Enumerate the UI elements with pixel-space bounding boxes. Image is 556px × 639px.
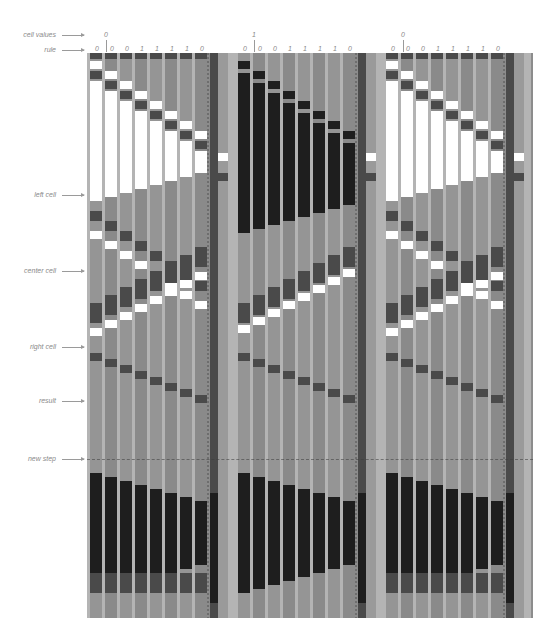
rule-bit: 0 [496,45,500,52]
cell-value: 1 [252,31,256,38]
rule-bit: 1 [481,45,485,52]
wavy-divider [503,53,505,618]
rule-bit: 1 [436,45,440,52]
column [366,53,376,618]
column [461,53,473,618]
cell-value: 0 [401,31,405,38]
column [253,53,265,618]
arrow-icon [62,195,84,196]
rule-bit: 0 [391,45,395,52]
arrow-icon [62,459,84,460]
arrow-icon [62,35,84,36]
wavy-divider [207,53,209,618]
column [283,53,295,618]
automaton-diagram [87,53,533,618]
column [90,53,102,618]
column [120,53,132,618]
rule-bit: 1 [466,45,470,52]
column [328,53,340,618]
rule-bit: 0 [348,45,352,52]
cell-value-pointer [106,40,107,52]
rule-bit: 0 [243,45,247,52]
column [210,53,218,618]
rule-bit: 0 [200,45,204,52]
column [313,53,325,618]
rule-bit: 0 [421,45,425,52]
rule-bit: 1 [140,45,144,52]
cell-value: 0 [104,31,108,38]
label-rule: rule [0,46,56,53]
rule-bit: 0 [95,45,99,52]
column [165,53,177,618]
new-step-line [87,459,533,460]
column [238,53,250,618]
label-right-cell: right cell [0,343,56,350]
rule-bit: 1 [155,45,159,52]
column [524,53,531,618]
wavy-divider [355,53,357,618]
column [150,53,162,618]
column [135,53,147,618]
label-cell-values: cell values [0,31,56,38]
label-center-cell: center cell [0,267,56,274]
column [228,53,235,618]
label-left-cell: left cell [0,191,56,198]
column [105,53,117,618]
column [376,53,383,618]
rule-bit: 1 [288,45,292,52]
column [218,53,228,618]
rule-bit: 1 [303,45,307,52]
column [386,53,398,618]
rule-bit: 0 [125,45,129,52]
column [401,53,413,618]
column [514,53,524,618]
rule-bit: 1 [170,45,174,52]
arrow-icon [62,347,84,348]
label-new-step: new step [0,455,56,462]
arrow-icon [62,50,84,51]
rule-bit: 1 [451,45,455,52]
column [431,53,443,618]
column [446,53,458,618]
column [491,53,503,618]
rule-bit: 1 [318,45,322,52]
rule-bit: 0 [110,45,114,52]
column [416,53,428,618]
column [180,53,192,618]
rule-bit: 0 [406,45,410,52]
column [343,53,355,618]
column [476,53,488,618]
column [298,53,310,618]
rule-bit: 0 [273,45,277,52]
column [268,53,280,618]
rule-bit: 1 [185,45,189,52]
column [506,53,514,618]
label-result: result [0,397,56,404]
arrow-icon [62,401,84,402]
column [195,53,207,618]
cell-value-pointer [254,40,255,52]
cell-value-pointer [403,40,404,52]
rule-bit: 0 [258,45,262,52]
arrow-icon [62,271,84,272]
column [358,53,366,618]
rule-bit: 1 [333,45,337,52]
